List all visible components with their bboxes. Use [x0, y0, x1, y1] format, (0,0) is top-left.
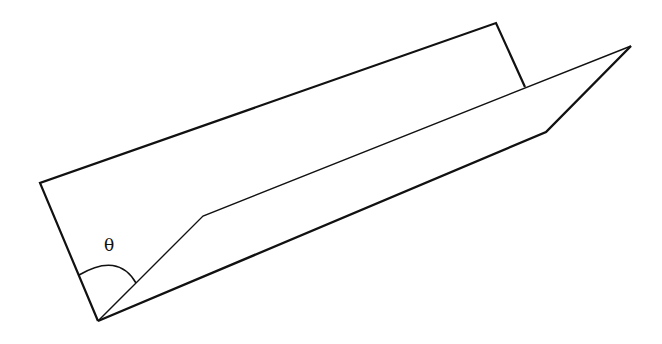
angle-arc [79, 265, 136, 283]
fold-line [98, 46, 631, 321]
angle-label: θ [104, 235, 114, 255]
front-panel-edge [98, 46, 631, 321]
trough-diagram: θ [0, 0, 662, 344]
diagram-svg: θ [0, 0, 662, 344]
